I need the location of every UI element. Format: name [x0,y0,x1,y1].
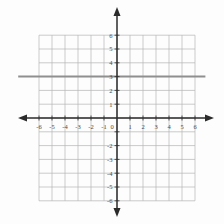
axis-arrowheads [18,7,214,217]
x-tick-label: 2 [141,123,144,130]
x-tick-label: -4 [62,123,68,130]
y-tick-label: 1 [109,101,112,108]
y-tick-label: -3 [107,156,112,163]
x-tick-label: 5 [180,123,183,130]
y-tick-label: -2 [107,142,112,149]
arrow-down-icon [114,208,121,217]
x-tick-label: 4 [167,123,171,130]
y-tick-label: -6 [107,197,113,204]
y-tick-label: 3 [109,73,112,80]
axes [25,13,209,210]
x-tick-label: -3 [75,123,80,130]
y-tick-label: 5 [109,45,112,52]
y-tick-label: 2 [109,87,112,94]
coordinate-plane: -6-5-4-3-2-10123456123456-2-3-4-5-6 [0,0,224,224]
arrow-right-icon [205,115,214,122]
graph-canvas: -6-5-4-3-2-10123456123456-2-3-4-5-6 [0,0,224,224]
y-tick-label: -4 [107,170,113,177]
x-tick-label: -2 [88,123,93,130]
x-tick-label: 6 [193,123,197,130]
x-tick-label: -6 [36,123,42,130]
x-tick-label: 0 [110,123,113,130]
x-tick-label: 3 [154,123,157,130]
x-tick-label: 1 [128,123,131,130]
arrow-left-icon [18,115,27,122]
x-tick-label: -5 [49,123,54,130]
y-tick-label: -5 [107,183,112,190]
x-tick-label: -1 [101,123,106,130]
arrow-up-icon [114,7,121,16]
